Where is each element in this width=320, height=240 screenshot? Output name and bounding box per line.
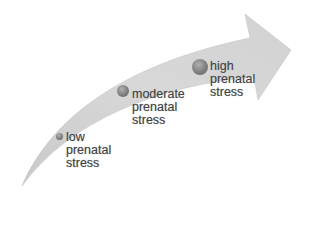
low-stress-dot xyxy=(56,133,63,140)
low-stress-label: low prenatal stress xyxy=(66,131,111,170)
moderate-stress-label: moderate prenatal stress xyxy=(132,88,185,127)
moderate-stress-dot xyxy=(117,85,129,97)
high-stress-dot xyxy=(192,59,208,75)
high-stress-label: high prenatal stress xyxy=(210,60,255,99)
